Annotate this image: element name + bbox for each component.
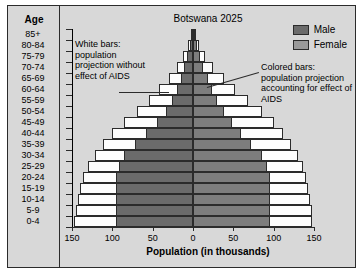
pyramid-row bbox=[72, 95, 314, 106]
bar-male-aids bbox=[166, 106, 193, 117]
pyramid-row bbox=[72, 73, 314, 84]
bar-male-aids bbox=[124, 150, 193, 161]
age-label: 45-49 bbox=[8, 117, 58, 128]
bar-female-aids bbox=[193, 183, 270, 194]
age-label: 5-9 bbox=[8, 205, 58, 216]
bar-female-aids bbox=[193, 139, 251, 150]
bar-male-aids bbox=[172, 95, 193, 106]
pyramid-row bbox=[72, 106, 314, 117]
bar-female-aids bbox=[193, 172, 270, 183]
x-tick-label: 150 bbox=[299, 233, 329, 243]
pyramid-row bbox=[72, 194, 314, 205]
pyramid-row bbox=[72, 62, 314, 73]
bar-male-aids bbox=[177, 84, 193, 95]
age-label: 60-64 bbox=[8, 84, 58, 95]
age-label: 85+ bbox=[8, 29, 58, 40]
bar-male-aids bbox=[157, 117, 193, 128]
x-tick-label: 100 bbox=[259, 233, 289, 243]
bar-male-aids bbox=[116, 205, 193, 216]
bar-female-aids bbox=[193, 106, 224, 117]
x-tick-label: 50 bbox=[138, 233, 168, 243]
bar-male-aids bbox=[184, 62, 193, 73]
pyramid-row bbox=[72, 128, 314, 139]
x-tick bbox=[314, 227, 315, 231]
bar-male-aids bbox=[116, 183, 193, 194]
age-label: 35-39 bbox=[8, 139, 58, 150]
bar-female-aids bbox=[193, 117, 232, 128]
bar-female-aids bbox=[193, 150, 262, 161]
legend-label-male: Male bbox=[314, 24, 336, 35]
bar-female-aids bbox=[193, 29, 195, 40]
pyramid-row bbox=[72, 216, 314, 227]
pyramid-row bbox=[72, 40, 314, 51]
x-tick-label: 150 bbox=[57, 233, 87, 243]
bars-container bbox=[72, 29, 314, 227]
age-label: 0-4 bbox=[8, 216, 58, 227]
bar-female-aids bbox=[193, 161, 267, 172]
age-label: 40-44 bbox=[8, 128, 58, 139]
x-tick bbox=[72, 227, 73, 231]
age-label: 75-79 bbox=[8, 51, 58, 62]
bar-male-aids bbox=[135, 139, 193, 150]
bar-female-aids bbox=[193, 95, 217, 106]
pyramid-row bbox=[72, 139, 314, 150]
pyramid-row bbox=[72, 84, 314, 95]
population-pyramid-figure: Age 85+80-8475-7970-7465-6960-6455-5950-… bbox=[7, 5, 356, 268]
age-label: 65-69 bbox=[8, 73, 58, 84]
pyramid-row bbox=[72, 117, 314, 128]
pyramid-row bbox=[72, 51, 314, 62]
x-tick bbox=[274, 227, 275, 231]
pyramid-row bbox=[72, 183, 314, 194]
bar-male-aids bbox=[181, 73, 193, 84]
bar-female-aids bbox=[193, 128, 241, 139]
bar-female-aids bbox=[193, 51, 200, 62]
bar-female-aids bbox=[193, 194, 270, 205]
age-label: 80-84 bbox=[8, 40, 58, 51]
pyramid-row bbox=[72, 172, 314, 183]
x-tick bbox=[233, 227, 234, 231]
bar-male-aids bbox=[116, 194, 193, 205]
age-label: 50-54 bbox=[8, 106, 58, 117]
bar-female-aids bbox=[193, 73, 208, 84]
bar-female-aids bbox=[193, 216, 270, 227]
age-label: 20-24 bbox=[8, 172, 58, 183]
chart-title: Botswana 2025 bbox=[61, 13, 355, 24]
pyramid-row bbox=[72, 205, 314, 216]
age-label: 15-19 bbox=[8, 183, 58, 194]
x-tick-label: 50 bbox=[218, 233, 248, 243]
y-tick bbox=[66, 227, 72, 228]
x-tick bbox=[153, 227, 154, 231]
age-label: 55-59 bbox=[8, 95, 58, 106]
age-label: 70-74 bbox=[8, 62, 58, 73]
zero-axis-line bbox=[72, 29, 73, 227]
x-tick-label: 0 bbox=[178, 233, 208, 243]
bar-male-aids bbox=[116, 172, 193, 183]
x-tick bbox=[193, 227, 194, 231]
age-label: 30-34 bbox=[8, 150, 58, 161]
age-column-header: Age bbox=[8, 14, 60, 25]
leader-line-white-bars bbox=[119, 92, 169, 93]
pyramid-row bbox=[72, 150, 314, 161]
age-axis-column: Age 85+80-8475-7970-7465-6960-6455-5950-… bbox=[8, 6, 60, 267]
bar-male-aids bbox=[116, 216, 193, 227]
x-tick-label: 100 bbox=[97, 233, 127, 243]
bar-male-aids bbox=[146, 128, 193, 139]
legend-label-female: Female bbox=[314, 39, 347, 50]
bar-female-aids bbox=[193, 205, 270, 216]
pyramid-row bbox=[72, 161, 314, 172]
bar-female-aids bbox=[193, 40, 197, 51]
age-label: 10-14 bbox=[8, 194, 58, 205]
bar-male-aids bbox=[119, 161, 193, 172]
x-axis-title: Population (in thousands) bbox=[61, 246, 355, 257]
age-label: 25-29 bbox=[8, 161, 58, 172]
bar-female-aids bbox=[193, 62, 203, 73]
x-tick bbox=[112, 227, 113, 231]
pyramid-row bbox=[72, 29, 314, 40]
plot-area: Botswana 2025 Male Female White bars: po… bbox=[61, 6, 355, 267]
